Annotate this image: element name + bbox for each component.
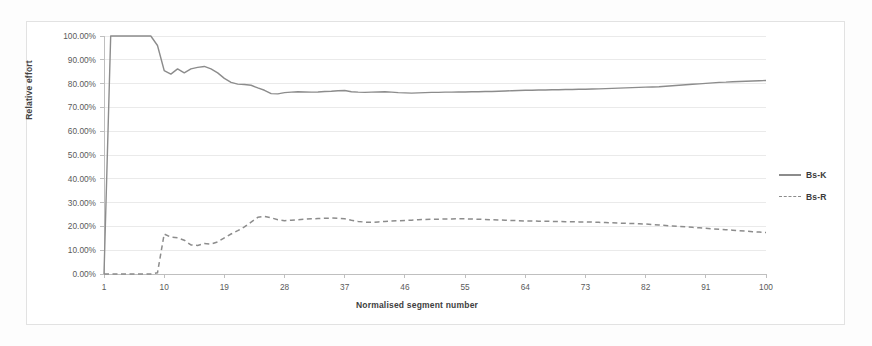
legend-item-bs-r: Bs-R — [779, 186, 843, 208]
x-tick-label: 37 — [340, 282, 350, 292]
y-axis-title: Relative effort — [24, 30, 34, 150]
y-tick-label: 30.00% — [68, 198, 97, 208]
y-tick-label: 40.00% — [68, 174, 97, 184]
y-tick-label: 80.00% — [68, 79, 97, 89]
x-tick-label: 73 — [581, 282, 591, 292]
y-tick-labels-group: 100.00%90.00%80.00%70.00%60.00%50.00%40.… — [63, 31, 96, 279]
x-tick-label: 100 — [759, 282, 773, 292]
chart-frame: 100.00%90.00%80.00%70.00%60.00%50.00%40.… — [26, 21, 845, 325]
x-tick-label: 64 — [521, 282, 531, 292]
x-tick-label: 55 — [460, 282, 470, 292]
legend-line-solid-icon — [779, 171, 801, 179]
chart-legend: Bs-K Bs-R — [779, 164, 843, 208]
y-tick-label: 60.00% — [68, 126, 97, 136]
y-tick-label: 0.00% — [72, 269, 96, 279]
y-tick-label: 20.00% — [68, 221, 97, 231]
x-axis-title: Normalised segment number — [207, 300, 627, 310]
gridlines-group — [104, 36, 766, 274]
chart-page: 100.00%90.00%80.00%70.00%60.00%50.00%40.… — [0, 0, 872, 346]
legend-label: Bs-K — [806, 170, 827, 180]
axes-group — [100, 36, 766, 278]
x-tick-label: 28 — [280, 282, 290, 292]
legend-item-bs-k: Bs-K — [779, 164, 843, 186]
x-tick-label: 1 — [102, 282, 107, 292]
x-tick-label: 82 — [641, 282, 651, 292]
legend-label: Bs-R — [806, 192, 827, 202]
x-tick-label: 91 — [701, 282, 711, 292]
y-tick-label: 90.00% — [68, 55, 97, 65]
x-tick-label: 10 — [160, 282, 170, 292]
legend-line-dashed-icon — [779, 193, 801, 201]
y-tick-label: 50.00% — [68, 150, 97, 160]
y-tick-label: 100.00% — [63, 31, 96, 41]
y-tick-label: 70.00% — [68, 102, 97, 112]
x-tick-label: 46 — [400, 282, 410, 292]
plot-area-wrapper: 100.00%90.00%80.00%70.00%60.00%50.00%40.… — [27, 22, 846, 326]
x-tick-label: 19 — [220, 282, 230, 292]
y-tick-label: 10.00% — [68, 245, 97, 255]
x-tick-labels-group: 110192837465564738291100 — [102, 282, 774, 292]
line-chart: 100.00%90.00%80.00%70.00%60.00%50.00%40.… — [27, 22, 846, 326]
series-line-bs-r — [104, 216, 766, 274]
